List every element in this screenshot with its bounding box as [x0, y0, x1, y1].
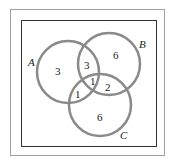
- region-c-only: 6: [97, 111, 103, 123]
- region-a-b: 3: [84, 59, 90, 71]
- region-a-only: 3: [55, 65, 61, 77]
- set-label-b: B: [139, 38, 146, 50]
- region-b-c: 2: [105, 81, 111, 93]
- region-a-c: 1: [75, 88, 81, 100]
- region-a-b-c: 1: [90, 75, 96, 87]
- venn-diagram: A B C 3 6 6 3 1 2 1: [0, 0, 175, 164]
- set-label-c: C: [120, 129, 128, 141]
- region-b-only: 6: [113, 49, 119, 61]
- set-label-a: A: [27, 56, 35, 68]
